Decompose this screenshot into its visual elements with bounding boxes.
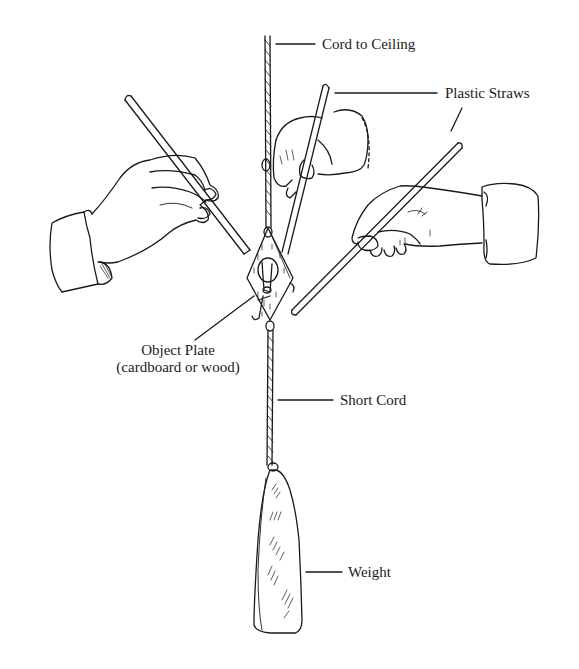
label-object-plate: Object Plate (cardboard or wood) (108, 342, 248, 376)
object-plate (247, 228, 293, 320)
leader-plastic-straws-2 (451, 108, 462, 131)
label-plastic-straws: Plastic Straws (445, 85, 530, 102)
plastic-straw-right (290, 143, 462, 315)
weight (254, 463, 302, 633)
plastic-straw-left (125, 96, 250, 255)
label-object-plate-subtitle: (cardboard or wood) (108, 359, 248, 376)
label-weight: Weight (348, 564, 391, 581)
right-hand (352, 183, 539, 264)
label-short-cord: Short Cord (340, 392, 406, 409)
cord-to-ceiling (262, 36, 272, 237)
top-hand (273, 110, 369, 198)
label-cord-to-ceiling: Cord to Ceiling (322, 36, 415, 53)
leader-object-plate (195, 296, 254, 340)
short-cord (266, 321, 274, 465)
diagram-canvas: Cord to Ceiling Plastic Straws Object Pl… (0, 0, 579, 669)
label-object-plate-title: Object Plate (108, 342, 248, 359)
